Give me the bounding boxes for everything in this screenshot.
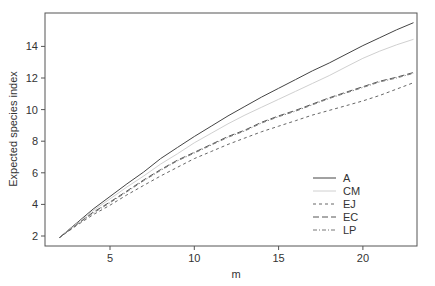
legend: ACMEJECLP bbox=[313, 172, 360, 236]
legend-label: CM bbox=[343, 185, 360, 197]
legend-item-ej: EJ bbox=[313, 198, 356, 210]
legend-label: EJ bbox=[343, 198, 356, 210]
y-axis-label: Expected species index bbox=[7, 71, 19, 187]
line-chart: 5101520 2468101214 m Expected species in… bbox=[0, 0, 435, 286]
series-line-ej bbox=[59, 83, 413, 238]
y-axis: 2468101214 bbox=[26, 40, 45, 242]
y-tick-label: 10 bbox=[26, 104, 38, 116]
plot-frame bbox=[45, 13, 417, 246]
series-line-a bbox=[59, 23, 413, 238]
series-line-ec bbox=[59, 73, 413, 238]
y-tick-label: 8 bbox=[32, 135, 38, 147]
legend-item-ec: EC bbox=[313, 211, 358, 223]
x-axis: 5101520 bbox=[107, 246, 369, 264]
legend-item-lp: LP bbox=[313, 224, 356, 236]
x-tick-label: 10 bbox=[188, 252, 200, 264]
legend-item-cm: CM bbox=[313, 185, 360, 197]
x-axis-label: m bbox=[231, 268, 240, 280]
x-tick-label: 15 bbox=[272, 252, 284, 264]
plot-curves bbox=[59, 23, 413, 238]
legend-label: EC bbox=[343, 211, 358, 223]
series-line-lp bbox=[59, 73, 413, 237]
x-tick-label: 5 bbox=[107, 252, 113, 264]
legend-label: A bbox=[343, 172, 351, 184]
x-tick-label: 20 bbox=[357, 252, 369, 264]
y-tick-label: 4 bbox=[32, 198, 38, 210]
y-tick-label: 12 bbox=[26, 72, 38, 84]
y-tick-label: 14 bbox=[26, 40, 38, 52]
series-line-cm bbox=[59, 39, 413, 237]
y-tick-label: 6 bbox=[32, 167, 38, 179]
legend-label: LP bbox=[343, 224, 356, 236]
legend-item-a: A bbox=[313, 172, 351, 184]
y-tick-label: 2 bbox=[32, 230, 38, 242]
